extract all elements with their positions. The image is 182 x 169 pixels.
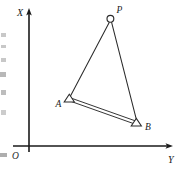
survey-triangle-figure: X Y O P A B xyxy=(0,0,182,169)
station-marker-A xyxy=(64,94,74,102)
margin-scan-artifact xyxy=(1,110,6,115)
margin-scan-artifact xyxy=(1,90,6,95)
baseline-stroke-upper xyxy=(71,98,137,121)
edge-A-B-baseline xyxy=(70,98,137,124)
origin-label: O xyxy=(12,151,19,161)
margin-scan-artifact xyxy=(1,58,6,62)
point-label-B: B xyxy=(145,122,151,132)
point-label-A: A xyxy=(55,99,62,109)
figure-canvas: X Y O P A B xyxy=(0,0,182,169)
margin-scan-artifact xyxy=(1,45,6,48)
margin-scan-artifact xyxy=(1,33,6,37)
y-axis-label: Y xyxy=(168,154,175,165)
baseline-stroke-lower xyxy=(70,101,136,124)
x-axis-label: X xyxy=(16,7,24,18)
margin-scan-artifact xyxy=(0,153,7,157)
point-label-P: P xyxy=(116,5,123,15)
margin-scan-artifact xyxy=(0,72,6,77)
edge-P-B xyxy=(112,22,137,119)
edge-P-A xyxy=(70,22,109,96)
station-marker-P xyxy=(107,15,114,22)
